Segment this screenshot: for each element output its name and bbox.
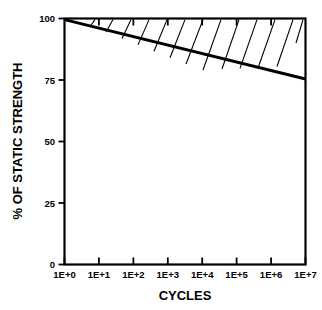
plot-frame (65, 19, 306, 265)
y-tick-label-25: 25 (44, 198, 55, 209)
y-tick-label-100: 100 (39, 13, 55, 24)
x-tick-label-6: 1E+6 (260, 269, 282, 280)
plot-border (65, 19, 306, 265)
x-tick-label-7: 1E+7 (294, 269, 316, 280)
y-tick-label-75: 75 (44, 75, 55, 86)
x-tick-label-0: 1E+0 (53, 269, 75, 280)
y-tick-label-50: 50 (44, 136, 55, 147)
x-tick-label-1: 1E+1 (88, 269, 111, 280)
x-tick-label-5: 1E+5 (225, 269, 248, 280)
y-axis-title: % OF STATIC STRENGTH (10, 63, 25, 220)
x-tick-label-4: 1E+4 (191, 269, 214, 280)
chart-figure: 100 75 50 25 0 1E+0 1E+1 1E+2 1E+3 1E+4 … (0, 0, 322, 310)
x-axis-title: CYCLES (159, 288, 212, 303)
x-tick-label-2: 1E+2 (122, 269, 144, 280)
x-tick-label-3: 1E+3 (157, 269, 179, 280)
chart-canvas: 100 75 50 25 0 1E+0 1E+1 1E+2 1E+3 1E+4 … (0, 0, 322, 310)
